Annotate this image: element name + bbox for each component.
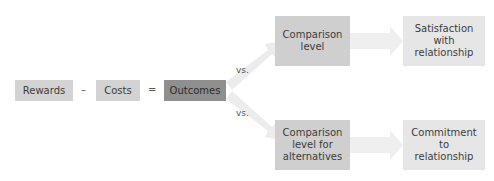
outcomes-box: Outcomes [164,80,226,101]
commitment-line: to [439,139,449,151]
satisfaction-line: relationship [415,47,474,59]
arrow-down-icon [226,91,282,140]
rewards-box: Rewards [15,80,73,101]
satisfaction-line: Satisfaction [415,23,474,35]
rewards-label: Rewards [23,85,65,97]
costs-label: Costs [104,85,131,97]
vs-bottom-label: vs. [236,108,249,118]
arrow-right-top-icon [350,26,403,56]
satisfaction-line: with [433,35,454,47]
comparison-level-line: Comparison [283,29,343,41]
equals-operator: = [148,84,156,95]
comparison-alternatives-line: Comparison [283,127,343,139]
arrow-right-bottom-icon [350,130,403,160]
comparison-alternatives-box: Comparison level for alternatives [275,120,350,170]
outcomes-label: Outcomes [170,85,221,97]
commitment-line: Commitment [411,127,476,139]
commitment-box: Commitment to relationship [403,120,485,170]
commitment-line: relationship [415,151,474,163]
comparison-alternatives-line: alternatives [283,151,342,163]
vs-top-label: vs. [236,65,249,75]
comparison-level-box: Comparison level [275,16,350,66]
minus-operator: – [81,84,86,95]
arrow-up-icon [226,41,282,90]
comparison-level-line: level [301,41,325,53]
costs-box: Costs [96,80,140,101]
comparison-alternatives-line: level for [292,139,333,151]
satisfaction-box: Satisfaction with relationship [403,16,485,66]
